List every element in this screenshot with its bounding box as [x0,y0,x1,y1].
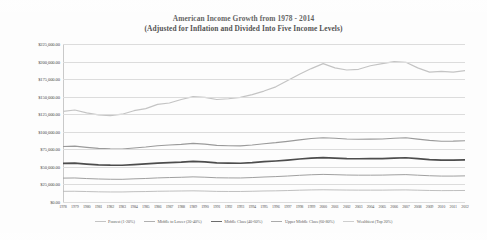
x-tick-label: 1978 [59,204,66,209]
x-tick-label: 1986 [154,204,161,209]
legend-swatch-icon [211,221,222,222]
chart-subtitle: (Adjusted for Inflation and Divided Into… [0,24,487,34]
x-tick-label: 1998 [296,204,303,209]
y-tick-label: $50,000.00 [40,164,60,169]
x-tick-label: 1989 [189,204,196,209]
legend-item[interactable]: Middle to Lower (20-40%) [144,219,202,224]
chart-title: American Income Growth from 1978 - 2014 [0,14,487,24]
y-tick-label: $200,000.00 [38,59,60,64]
series-line [63,190,465,192]
gridline [63,132,465,133]
plot-area [63,44,465,202]
x-tick-label: 1996 [272,204,279,209]
gridline [63,114,465,115]
x-tick-label: 2003 [355,204,362,209]
series-line [63,158,465,166]
x-tick-label: 1997 [284,204,291,209]
y-tick-label: $125,000.00 [38,112,60,117]
gridline [63,149,465,150]
x-tick-label: 2002 [343,204,350,209]
legend-swatch-icon [95,221,106,222]
legend-item[interactable]: Poorest (1-20%) [95,219,135,224]
legend-swatch-icon [144,221,155,222]
x-tick-label: 1999 [308,204,315,209]
income-growth-chart: American Income Growth from 1978 - 2014 … [0,0,487,240]
legend-item[interactable]: Upper Middle Class (60-80%) [271,219,334,224]
x-tick-label: 1979 [71,204,78,209]
series-line [63,174,465,179]
x-tick-label: 2011 [450,204,457,209]
x-tick-label: 2005 [379,204,386,209]
chart-title-block: American Income Growth from 1978 - 2014 … [0,14,487,34]
gridline [63,44,465,45]
y-tick-label: $225,000.00 [38,42,60,47]
x-tick-label: 1984 [130,204,137,209]
x-tick-label: 2006 [390,204,397,209]
gridline [63,184,465,185]
x-tick-label: 2010 [438,204,445,209]
x-tick-label: 1981 [95,204,102,209]
x-tick-label: 1991 [213,204,220,209]
x-tick-label: 1988 [178,204,185,209]
legend-label: Middle to Lower (20-40%) [157,219,201,224]
gridline [63,167,465,168]
x-tick-label: 1985 [142,204,149,209]
legend-label: Wealthiest (Top 20%) [357,219,393,224]
x-tick-label: 2008 [414,204,421,209]
legend-item[interactable]: Wealthiest (Top 20%) [343,219,392,224]
y-tick-label: $175,000.00 [38,77,60,82]
legend-swatch-icon [271,221,282,222]
series-line [63,62,465,116]
y-tick-label: $150,000.00 [38,94,60,99]
legend-label: Poorest (1-20%) [108,219,135,224]
gridline [63,202,465,203]
gridline [63,62,465,63]
series-lines [63,44,465,202]
x-tick-label: 1995 [260,204,267,209]
gridline [63,79,465,80]
y-tick-label: $25,000.00 [40,182,60,187]
x-tick-label: 1983 [118,204,125,209]
x-tick-label: 1980 [83,204,90,209]
y-tick-label: $75,000.00 [40,147,60,152]
gridline [63,97,465,98]
y-axis-labels: $225,000.00$200,000.00$175,000.00$150,00… [0,44,60,202]
x-tick-label: 1990 [201,204,208,209]
x-tick-label: 2012 [461,204,468,209]
chart-legend: Poorest (1-20%)Middle to Lower (20-40%)M… [0,219,487,224]
x-tick-label: 2000 [319,204,326,209]
legend-item[interactable]: Middle Class (40-60%) [211,219,263,224]
x-tick-label: 2004 [367,204,374,209]
legend-swatch-icon [343,221,354,222]
x-tick-label: 2009 [426,204,433,209]
x-tick-label: 1982 [107,204,114,209]
x-tick-label: 1994 [248,204,255,209]
x-axis-labels: 1978197919801981198219831984198519861987… [63,204,465,218]
legend-label: Upper Middle Class (60-80%) [285,219,334,224]
x-tick-label: 1993 [237,204,244,209]
y-tick-label: $100,000.00 [38,129,60,134]
x-tick-label: 1987 [166,204,173,209]
series-line [63,138,465,149]
x-tick-label: 2001 [331,204,338,209]
legend-label: Middle Class (40-60%) [224,219,262,224]
x-tick-label: 2007 [402,204,409,209]
x-tick-label: 1992 [225,204,232,209]
